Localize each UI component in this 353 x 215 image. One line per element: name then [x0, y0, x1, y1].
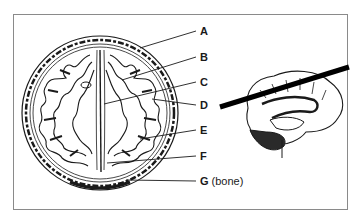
label-g-note: (bone)	[212, 175, 244, 187]
label-a: A	[200, 26, 208, 37]
axial-brain-section	[22, 36, 178, 190]
sagittal-brain-view	[220, 67, 349, 158]
label-g-letter: G	[200, 175, 209, 187]
label-e: E	[200, 125, 207, 136]
brain-diagram	[0, 0, 353, 215]
label-c: C	[200, 77, 208, 88]
label-d: D	[200, 100, 208, 111]
label-b: B	[200, 52, 208, 63]
label-f: F	[200, 151, 207, 162]
label-g: G(bone)	[200, 176, 243, 187]
